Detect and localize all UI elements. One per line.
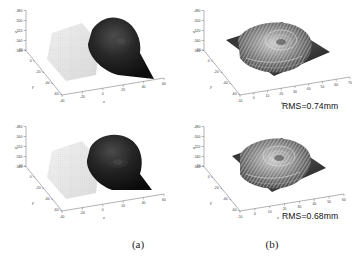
plot-svg-top-left: -480 -500 -520 -540 -560 z 20 0 -20 -40 … (0, 0, 178, 118)
x-tick-label: 70 (348, 81, 352, 85)
y-tick-label: -60 (232, 208, 237, 212)
z-axis-label: z (192, 31, 196, 34)
y-tick-label: 0 (208, 175, 210, 179)
measured-surface-top-left (88, 17, 154, 79)
x-tick-label: 0 (102, 208, 104, 212)
figure-canvas: -480 -500 -520 -540 -560 z 20 0 -20 -40 … (0, 0, 356, 258)
y-tick-label: -40 (45, 81, 50, 85)
y-tick-label: -20 (214, 186, 219, 190)
x-tick-label: 60 (162, 82, 166, 86)
x-axis-label: x (276, 216, 279, 220)
rms-annotation-bottom: RMS=0.68mm (282, 211, 338, 221)
z-tick-label: -500 (194, 135, 201, 139)
z-tick-label: -540 (16, 39, 23, 43)
y-tick-label: -20 (214, 70, 219, 74)
z-tick-label: -480 (194, 125, 201, 129)
x-tick-label: 40 (142, 201, 146, 205)
z-tick-label: -500 (16, 135, 23, 139)
y-tick-label: 0 (30, 59, 32, 63)
x-tick-label: -20 (80, 95, 85, 99)
y-tick-label: 20 (19, 164, 23, 168)
z-axis-label: z (192, 147, 196, 150)
plot-panel-bottom-right: -480 -500 -520 -540 -560 z 20 0 -20 -40 … (178, 118, 356, 236)
x-tick-label: 0 (102, 92, 104, 96)
z-axis-bottom-right: -480 -500 -520 -540 -560 z (192, 125, 205, 169)
y-tick-label: 20 (197, 48, 201, 52)
z-axis-bottom-left: -480 -500 -520 -540 -560 z (14, 125, 27, 169)
panel-caption-b: (b) (242, 238, 302, 250)
x-tick-label: 20 (121, 204, 125, 208)
plot-panel-bottom-left: -480 -500 -520 -540 -560 z 20 0 -20 -40 … (0, 118, 178, 236)
x-tick-label: 0 (254, 212, 256, 216)
z-axis-top-left: -480 -500 -520 -540 -560 z (14, 9, 27, 53)
x-tick-label: 60 (334, 83, 338, 87)
x-axis-top-left: -40 -20 0 20 40 60 x (60, 78, 166, 104)
x-tick-label: -10 (238, 99, 243, 103)
registered-surface-top-right (226, 22, 330, 76)
x-tick-label: 40 (307, 87, 311, 91)
y-tick-label: -20 (36, 70, 41, 74)
registered-surface-bottom-right (232, 138, 326, 192)
z-tick-label: -540 (16, 155, 23, 159)
y-tick-label: -60 (232, 92, 237, 96)
x-tick-label: 40 (142, 85, 146, 89)
x-tick-label: 10 (266, 94, 270, 98)
y-tick-label: -40 (223, 81, 228, 85)
x-axis-bottom-left: -40 -20 0 20 40 60 x (60, 194, 166, 220)
y-tick-label: 20 (19, 48, 23, 52)
z-tick-label: -500 (16, 19, 23, 23)
y-tick-label: -60 (54, 208, 59, 212)
x-tick-label: 60 (162, 198, 166, 202)
z-axis-top-right: -480 -500 -520 -540 -560 z (192, 9, 205, 53)
y-tick-label: -20 (36, 186, 41, 190)
z-tick-label: -540 (194, 155, 201, 159)
y-axis-top-right: 20 0 -20 -40 -60 y (197, 48, 240, 97)
plot-panel-top-right: -480 -500 -520 -540 -560 z 20 0 -20 -40 … (178, 0, 356, 118)
y-axis-label: y (31, 85, 34, 89)
y-axis-bottom-right: 20 0 -20 -40 -60 y (197, 164, 240, 213)
y-tick-label: 0 (30, 175, 32, 179)
x-tick-label: 30 (293, 90, 297, 94)
x-tick-label: 30 (298, 205, 302, 209)
y-axis-label: y (31, 201, 34, 205)
x-tick-label: -40 (60, 99, 65, 103)
z-tick-label: -480 (16, 9, 23, 13)
plot-panel-top-left: -480 -500 -520 -540 -560 z 20 0 -20 -40 … (0, 0, 178, 118)
x-tick-label: 40 (312, 202, 316, 206)
x-axis-label: x (102, 100, 105, 104)
x-axis-label: x (102, 216, 105, 220)
x-tick-label: 0 (253, 96, 255, 100)
y-tick-label: -60 (54, 92, 59, 96)
y-tick-label: 0 (208, 59, 210, 63)
x-tick-label: -20 (80, 211, 85, 215)
z-axis-label: z (14, 31, 18, 34)
panel-caption-a: (a) (108, 238, 168, 250)
y-tick-label: 20 (197, 164, 201, 168)
x-tick-label: 20 (279, 92, 283, 96)
rms-annotation-top: RMS=0.74mm (282, 101, 338, 111)
y-tick-label: -40 (223, 197, 228, 201)
z-tick-label: -480 (16, 125, 23, 129)
x-tick-label: 50 (321, 85, 325, 89)
y-axis-label: y (209, 201, 212, 205)
plot-svg-bottom-left: -480 -500 -520 -540 -560 z 20 0 -20 -40 … (0, 118, 178, 236)
x-tick-label: -10 (238, 215, 243, 219)
z-tick-label: -480 (194, 9, 201, 13)
x-tick-label: 10 (268, 210, 272, 214)
y-tick-label: -40 (45, 197, 50, 201)
z-axis-label: z (14, 147, 18, 150)
z-tick-label: -500 (194, 19, 201, 23)
x-tick-label: 50 (327, 200, 331, 204)
x-tick-label: -40 (60, 215, 65, 219)
z-tick-label: -540 (194, 39, 201, 43)
x-tick-label: 20 (121, 88, 125, 92)
x-tick-label: 60 (342, 198, 346, 202)
y-axis-label: y (209, 85, 212, 89)
